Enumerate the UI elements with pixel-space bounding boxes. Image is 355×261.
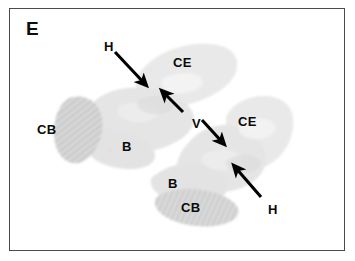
label-v-mid: V xyxy=(192,117,201,130)
label-h-top: H xyxy=(104,40,114,53)
label-b-left: B xyxy=(122,140,132,153)
label-ce-top: CE xyxy=(173,56,192,69)
label-ce-right: CE xyxy=(238,115,257,128)
panel-letter: E xyxy=(26,19,39,38)
figure-panel: E H CE CB B V CE B CB H xyxy=(0,0,355,261)
label-cb-left: CB xyxy=(37,123,56,136)
label-cb-bottom: CB xyxy=(181,201,200,214)
label-h-bottom: H xyxy=(268,203,278,216)
label-b-bottom: B xyxy=(168,177,178,190)
